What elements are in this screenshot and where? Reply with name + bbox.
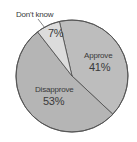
pie-chart bbox=[0, 0, 137, 142]
label-disapprove-pct: 53% bbox=[43, 96, 64, 107]
label-dontknow-pct: 7% bbox=[48, 28, 63, 39]
label-approve-pct: 41% bbox=[89, 62, 110, 73]
label-approve-name: Approve bbox=[84, 52, 112, 60]
label-dontknow-name: Don't know bbox=[16, 11, 53, 19]
dontknow-leader-line bbox=[38, 19, 45, 28]
label-disapprove-name: Disapprove bbox=[35, 86, 73, 94]
